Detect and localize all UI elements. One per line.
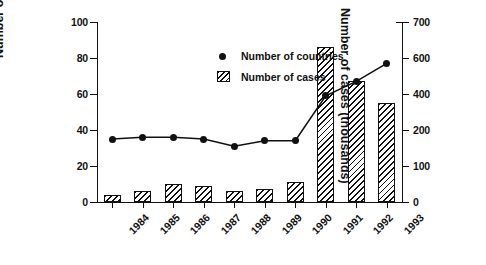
left-tick <box>90 94 97 95</box>
data-point <box>353 78 360 85</box>
data-point <box>139 134 146 141</box>
x-tick-label: 1987 <box>219 212 243 236</box>
x-tick <box>326 202 327 208</box>
x-tick-label: 1989 <box>280 212 304 236</box>
x-tick-label: 1992 <box>371 212 395 236</box>
right-tick-label: 0 <box>413 197 419 208</box>
right-tick <box>402 58 409 59</box>
left-tick <box>90 166 97 167</box>
legend-label-countries: Number of countries <box>241 50 344 63</box>
right-tick-label: 200 <box>413 125 430 136</box>
x-tick-label: 1985 <box>158 212 182 236</box>
x-tick-label: 1986 <box>188 212 212 236</box>
right-tick-label: 100 <box>413 161 430 172</box>
x-tick <box>265 202 266 208</box>
dot-marker-icon <box>219 53 226 60</box>
right-tick-label: 600 <box>413 53 430 64</box>
left-tick-label: 0 <box>82 197 88 208</box>
legend-label-cases: Number of cases <box>241 71 326 84</box>
left-tick-label: 40 <box>77 125 88 136</box>
data-point <box>109 136 116 143</box>
right-tick <box>402 166 409 167</box>
data-point <box>170 134 177 141</box>
data-point <box>200 136 207 143</box>
right-tick-label: 700 <box>413 17 430 28</box>
left-tick-label: 20 <box>77 161 88 172</box>
line-series <box>97 22 402 202</box>
x-tick <box>173 202 174 208</box>
x-tick-label: 1990 <box>310 212 334 236</box>
left-tick <box>90 130 97 131</box>
left-tick <box>90 58 97 59</box>
x-tick-label: 1991 <box>341 212 365 236</box>
x-tick <box>295 202 296 208</box>
left-tick-label: 80 <box>77 53 88 64</box>
right-tick <box>402 130 409 131</box>
left-tick <box>90 22 97 23</box>
data-point <box>231 143 238 150</box>
x-tick <box>356 202 357 208</box>
x-tick <box>234 202 235 208</box>
right-tick <box>402 94 409 95</box>
left-tick <box>90 202 97 203</box>
right-axis-line <box>402 22 403 202</box>
right-tick <box>402 202 409 203</box>
right-tick-label: 400 <box>413 89 430 100</box>
plot-area: 020406080100 0100200400600700 1984198519… <box>97 22 402 202</box>
x-tick-label: 1993 <box>402 212 426 236</box>
x-tick <box>143 202 144 208</box>
x-tick <box>387 202 388 208</box>
left-tick-label: 60 <box>77 89 88 100</box>
x-tick <box>204 202 205 208</box>
hatch-box-marker-icon <box>217 71 230 82</box>
left-tick-label: 100 <box>71 17 88 28</box>
x-tick <box>112 202 113 208</box>
x-tick-label: 1988 <box>249 212 273 236</box>
left-axis-title: Number of countries <box>0 0 6 58</box>
right-tick <box>402 22 409 23</box>
chart-figure: Number of countries Number of cases (tho… <box>0 0 486 265</box>
x-tick-label: 1984 <box>127 212 151 236</box>
